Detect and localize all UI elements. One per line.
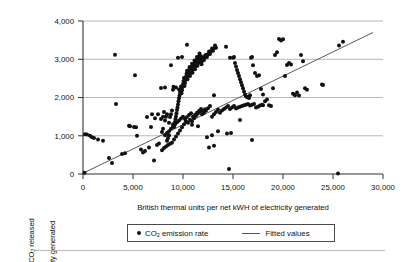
scatter-point	[212, 93, 216, 97]
scatter-point	[128, 124, 132, 128]
scatter-point	[238, 118, 242, 122]
scatter-point	[171, 122, 175, 126]
scatter-point	[165, 112, 169, 116]
ytick-2000: 2,000	[54, 93, 74, 102]
scatter-point	[251, 63, 255, 67]
scatter-point	[196, 124, 200, 128]
scatter-point	[156, 112, 160, 116]
scatter-point	[150, 112, 154, 116]
chart-legend: CO2 emission rate Fitted values	[127, 224, 335, 242]
scatter-point	[101, 139, 105, 143]
scatter-point	[176, 56, 180, 60]
scatter-point	[177, 87, 181, 91]
scatter-point	[283, 74, 287, 78]
scatter-point	[216, 129, 220, 133]
scatter-point	[271, 86, 275, 90]
x-axis-tick-labels: 0 5,000 10,000 15,000 20,000 25,000 30,0…	[81, 183, 396, 192]
footer-rule	[33, 250, 385, 251]
ytick-3000: 3,000	[54, 55, 74, 64]
scatter-point	[281, 37, 285, 41]
scatter-point	[133, 73, 137, 77]
scatter-point	[275, 50, 279, 54]
scatter-point	[149, 125, 153, 129]
ytick-0: 0	[70, 170, 75, 179]
scatter-point	[152, 159, 156, 163]
scatter-point	[145, 115, 149, 119]
scatter-point	[168, 142, 172, 146]
scatter-point	[163, 118, 167, 122]
gridlines	[83, 21, 383, 136]
scatter-point	[321, 83, 325, 87]
scatter-point	[185, 43, 189, 47]
scatter-point	[208, 104, 212, 108]
scatter-point	[337, 43, 341, 47]
scatter-point	[110, 161, 114, 165]
scatter-point	[157, 141, 161, 145]
scatter-point	[224, 45, 228, 49]
scatter-point	[261, 92, 265, 96]
scatter-point	[205, 135, 209, 139]
scatter-point	[265, 97, 269, 101]
scatter-point	[143, 149, 147, 153]
xtick-0: 0	[81, 183, 86, 192]
xtick-30000: 30,000	[371, 183, 396, 192]
scatter-point	[261, 103, 265, 107]
scatter-point	[299, 53, 303, 57]
xtick-15000: 15,000	[221, 183, 246, 192]
scatter-point	[301, 59, 305, 63]
scatter-point	[189, 111, 193, 115]
scatter-point	[305, 88, 309, 92]
scatter-point	[167, 121, 171, 125]
scatter-point	[147, 146, 151, 150]
legend-marker-scatter-icon	[137, 231, 141, 235]
scatter-point	[341, 40, 345, 44]
scatter-point	[248, 93, 252, 97]
scatter-point	[227, 167, 231, 171]
scatter-point	[207, 146, 211, 150]
scatter-point	[83, 171, 87, 175]
scatter-point	[212, 144, 216, 148]
scatter-point	[135, 134, 139, 138]
scatter-point	[107, 156, 111, 160]
scatter-point	[297, 94, 301, 98]
scatter-point	[113, 53, 117, 57]
scatter-point	[114, 102, 118, 106]
xtick-10000: 10,000	[171, 183, 196, 192]
scatter-point	[203, 54, 207, 58]
x-axis-title: British thermal units per net kWH of ele…	[83, 203, 383, 212]
legend-marker-line-icon	[242, 233, 260, 234]
scatter-point	[198, 55, 202, 59]
scatter-point	[257, 73, 261, 77]
scatter-point	[123, 151, 127, 155]
scatter-point	[250, 55, 254, 59]
y-axis-ticks	[78, 21, 83, 174]
plot-canvas: 4,000 3,000 2,000 1,000 0 0 5,000 10,000…	[0, 0, 404, 262]
scatter-point	[234, 65, 238, 69]
scatter-point	[159, 86, 163, 90]
scatter-point	[134, 125, 138, 129]
scatter-point	[259, 87, 263, 91]
xtick-5000: 5,000	[123, 183, 143, 192]
scatter-point	[232, 55, 236, 59]
scatter-point	[233, 61, 237, 65]
scatter-point-series	[83, 37, 346, 176]
scatter-point	[170, 109, 174, 113]
scatter-point	[169, 112, 173, 116]
scatter-point	[210, 133, 214, 137]
legend-label-emission-rate: CO2 emission rate	[145, 229, 208, 238]
scatter-point	[96, 138, 100, 142]
scatter-point	[289, 63, 293, 67]
scatter-point	[161, 127, 165, 131]
scatter-point	[214, 46, 218, 50]
scatter-point	[203, 107, 207, 111]
xtick-20000: 20,000	[271, 183, 296, 192]
scatter-point	[190, 123, 194, 127]
scatter-point	[269, 104, 273, 108]
scatter-point	[180, 55, 184, 59]
scatter-point	[169, 63, 173, 67]
scatter-point	[229, 131, 233, 135]
scatter-point	[225, 131, 229, 135]
scatter-point	[163, 86, 167, 90]
scatter-point	[252, 102, 256, 106]
legend-label-fitted-values: Fitted values	[265, 229, 309, 238]
